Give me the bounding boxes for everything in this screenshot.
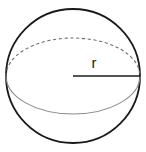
radius-label: r xyxy=(92,54,97,71)
sphere-figure: r xyxy=(0,0,146,152)
sphere-diagram-svg: r xyxy=(0,0,146,152)
